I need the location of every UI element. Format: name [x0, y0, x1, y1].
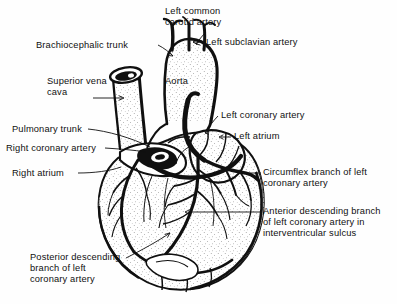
label-line-2: branch of left	[30, 263, 86, 273]
label-pulmonary-trunk: Pulmonary trunk	[12, 124, 82, 135]
label-left-common-carotid-artery: Left common carotid artery	[165, 6, 221, 28]
label-line-1: Left common	[165, 6, 220, 16]
label-left-subclavian-artery: Left subclavian artery	[206, 37, 298, 48]
label-left-coronary-artery: Left coronary artery	[221, 110, 305, 121]
label-line-1: Anterior descending branch	[263, 206, 381, 216]
label-posterior-descending-branch: Posterior descending branch of left coro…	[30, 252, 120, 286]
label-left-atrium: Left atrium	[234, 131, 280, 142]
label-right-atrium: Right atrium	[12, 168, 64, 179]
label-anterior-descending-branch: Anterior descending branch of left coron…	[263, 206, 381, 240]
label-line-3: interventricular sulcus	[263, 228, 356, 238]
superior-vena-cava-shape	[109, 65, 147, 150]
label-right-coronary-artery: Right coronary artery	[6, 143, 96, 154]
label-line-2: coronary artery	[263, 178, 328, 188]
label-line-1: Posterior descending	[30, 252, 120, 262]
label-line-1: Superior vena	[47, 76, 107, 86]
label-line-3: coronary artery	[30, 274, 95, 284]
label-brachiocephalic-trunk: Brachiocephalic trunk	[36, 40, 128, 51]
label-aorta: Aorta	[165, 76, 188, 87]
heart-anatomy-figure: Brachiocephalic trunk Left common caroti…	[0, 0, 397, 304]
label-line-2: cava	[47, 87, 67, 97]
aorta-shape	[165, 39, 218, 136]
label-line-2: carotid artery	[165, 17, 221, 27]
label-superior-vena-cava: Superior vena cava	[47, 76, 107, 98]
label-circumflex-branch: Circumflex branch of left coronary arter…	[263, 167, 367, 189]
label-line-2: of left coronary artery in	[263, 217, 365, 227]
label-line-1: Circumflex branch of left	[263, 167, 367, 177]
